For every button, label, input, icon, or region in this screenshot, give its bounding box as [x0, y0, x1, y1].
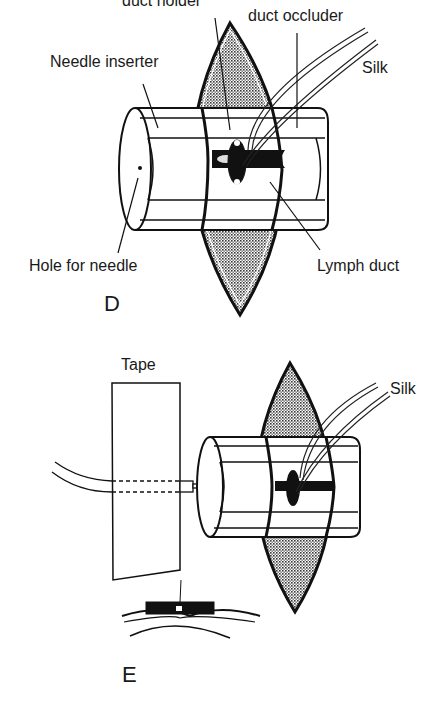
label-duct-holder: duct holder	[122, 0, 201, 9]
label-lymph-duct: Lymph duct	[317, 258, 399, 274]
label-hole-for-needle: Hole for needle	[29, 258, 138, 274]
panel-letter-d: D	[104, 293, 120, 315]
label-duct-occluder: duct occluder	[248, 8, 343, 24]
tissue-cross-section	[122, 580, 260, 638]
label-tape: Tape	[121, 357, 156, 373]
panel-e-illustration	[52, 363, 390, 638]
label-silk-e: Silk	[390, 381, 416, 397]
label-silk-d: Silk	[362, 60, 388, 76]
cannulation-device-e	[197, 437, 360, 537]
surgical-diagram	[0, 0, 440, 726]
label-needle-inserter: Needle inserter	[50, 54, 159, 70]
panel-letter-e: E	[122, 664, 137, 686]
